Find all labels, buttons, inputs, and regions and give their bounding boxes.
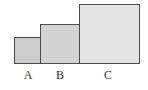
label-a: A	[18, 68, 38, 82]
label-b: B	[50, 68, 70, 82]
square-c	[79, 4, 140, 64]
label-c: C	[98, 68, 118, 82]
square-a	[14, 37, 41, 64]
square-b	[40, 24, 80, 64]
